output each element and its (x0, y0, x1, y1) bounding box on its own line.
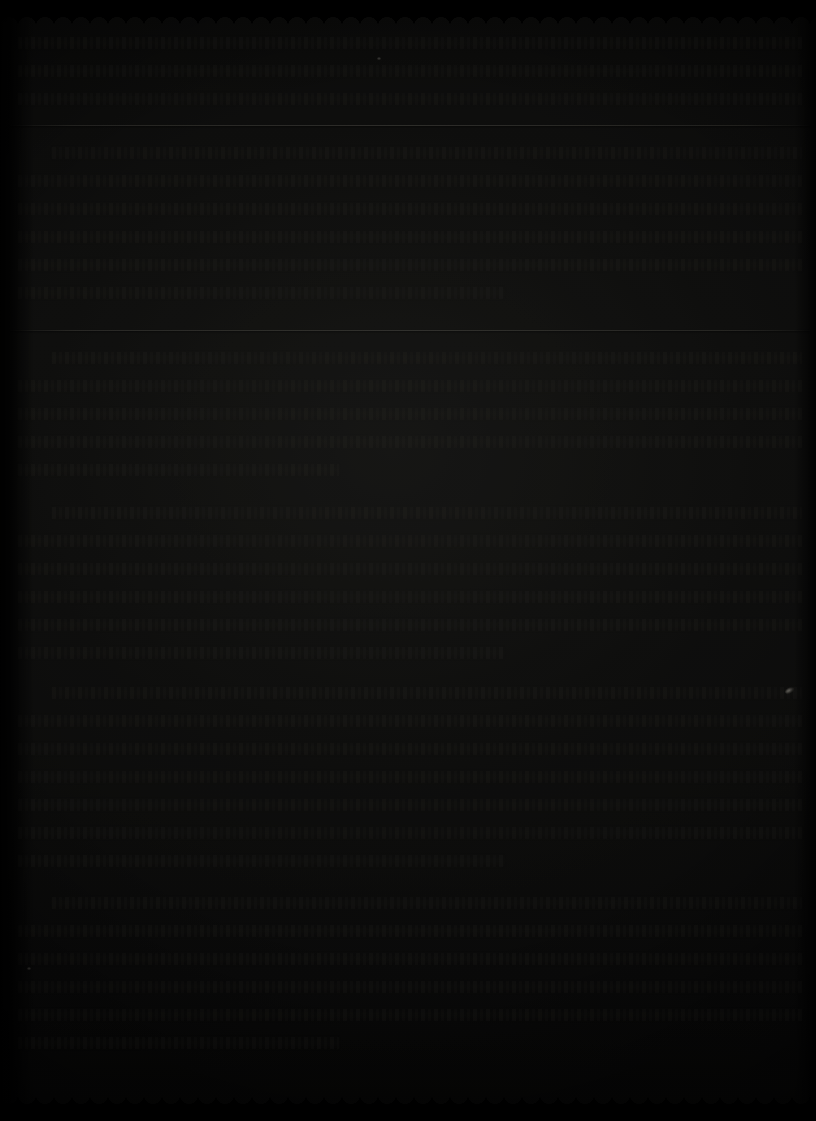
text-line (18, 345, 802, 373)
paragraph-block (18, 30, 802, 114)
text-line (18, 890, 802, 918)
text-line (18, 820, 802, 848)
paragraph-block (18, 890, 802, 1058)
text-line (18, 528, 802, 556)
text-line (18, 30, 802, 58)
text-line (18, 612, 802, 640)
text-line (18, 1030, 802, 1058)
text-line (18, 86, 802, 114)
text-line (18, 918, 802, 946)
text-line (18, 764, 802, 792)
text-line (18, 556, 802, 584)
text-line (18, 708, 802, 736)
text-line (18, 946, 802, 974)
horizontal-rule-upper (10, 125, 810, 126)
text-line (18, 500, 802, 528)
text-line (18, 196, 802, 224)
text-line (18, 584, 802, 612)
text-line (18, 373, 802, 401)
scanned-page-viewport (0, 0, 816, 1121)
text-line (18, 680, 802, 708)
text-line (18, 252, 802, 280)
text-line (18, 429, 802, 457)
text-line (18, 224, 802, 252)
text-line (18, 457, 802, 485)
text-line (18, 1002, 802, 1030)
text-line (18, 848, 802, 876)
paragraph-block (18, 500, 802, 668)
paragraph-block (18, 140, 802, 308)
text-line (18, 640, 802, 668)
text-line (18, 280, 802, 308)
dust-speck-left-artifact (27, 967, 31, 970)
text-line (18, 792, 802, 820)
text-line (18, 140, 802, 168)
paragraph-block (18, 345, 802, 485)
text-line (18, 736, 802, 764)
text-line (18, 58, 802, 86)
text-line (18, 974, 802, 1002)
dust-speck-upper-artifact (377, 57, 381, 60)
horizontal-rule-lower (10, 330, 810, 331)
text-line (18, 168, 802, 196)
paragraph-block (18, 680, 802, 876)
text-line (18, 401, 802, 429)
